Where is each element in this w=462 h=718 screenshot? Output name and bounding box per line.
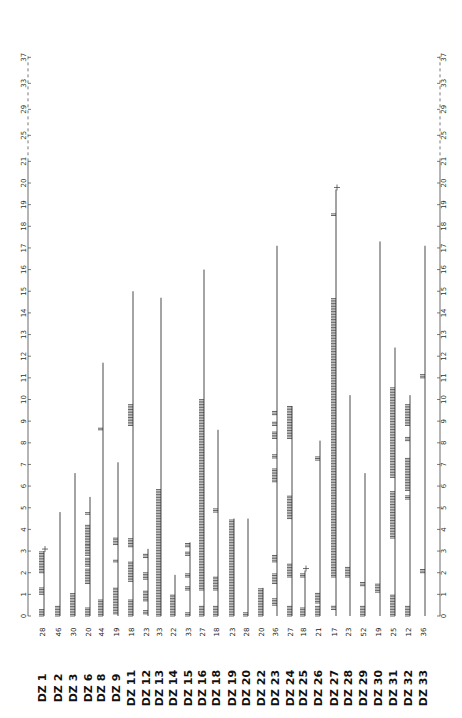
category-bars	[39, 184, 425, 616]
axis-tick-label: 37	[20, 53, 28, 62]
axis-tick-label: 6	[440, 483, 448, 488]
bar-dz-24	[287, 406, 292, 616]
category-label: DZ 8	[95, 674, 108, 703]
axis-tick-label: 2	[440, 570, 448, 574]
axis-tick-label: 20	[440, 179, 448, 188]
bar-dz-25	[300, 566, 309, 616]
bar-dz-3	[70, 473, 75, 616]
bar-dz-22	[258, 588, 263, 616]
range-chart: 0123456789101112131415161718192021252933…	[0, 0, 462, 718]
category-label: DZ 32	[402, 670, 415, 706]
axis-tick-label: 9	[20, 419, 28, 423]
bar-dz-16	[199, 270, 204, 616]
count-label: 44	[98, 627, 106, 636]
count-labels: 2846302044191823332233271823282036271821…	[39, 627, 428, 636]
count-label: 25	[390, 628, 398, 637]
left-value-axis: 0123456789101112131415161718192021252933…	[20, 53, 31, 618]
axis-tick-label: 8	[440, 441, 448, 445]
bar-dz-12	[143, 549, 148, 616]
bar-dz-20	[243, 519, 248, 616]
axis-tick-label: 15	[20, 287, 28, 296]
category-label: DZ 9	[110, 674, 123, 703]
axis-tick-label: 25	[20, 131, 28, 140]
category-label: DZ 22	[255, 670, 268, 706]
axis-tick-label: 33	[20, 79, 28, 88]
category-label: DZ 13	[153, 670, 166, 706]
count-label: 18	[128, 628, 136, 637]
category-label: DZ 18	[210, 670, 223, 706]
category-label: DZ 3	[67, 674, 80, 703]
bar-dz-32	[405, 395, 410, 616]
bar-dz-13	[156, 298, 161, 616]
count-label: 52	[360, 628, 368, 637]
axis-tick-label: 13	[20, 330, 28, 339]
bar-dz-30	[375, 241, 380, 616]
count-label: 27	[199, 628, 207, 637]
bar-dz-2	[55, 512, 60, 616]
right-value-axis: 0123456789101112131415161718192021252933…	[437, 53, 448, 618]
bar-dz-33	[420, 246, 425, 616]
category-label: DZ 27	[328, 670, 341, 706]
count-label: 17	[331, 628, 339, 637]
axis-tick-label: 7	[440, 462, 448, 466]
category-label: DZ 1	[36, 674, 49, 703]
axis-tick-label: 29	[440, 105, 448, 114]
category-label: DZ 28	[342, 670, 355, 706]
bar-dz-14	[170, 575, 175, 616]
count-label: 33	[185, 628, 193, 637]
axis-tick-label: 3	[440, 549, 448, 553]
bar-dz-23	[272, 246, 277, 616]
axis-tick-label: 18	[20, 222, 28, 231]
category-label: DZ 11	[125, 670, 138, 706]
axis-tick-label: 16	[440, 265, 448, 274]
count-label: 20	[85, 628, 93, 637]
axis-tick-label: 13	[440, 330, 448, 339]
axis-tick-label: 3	[20, 549, 28, 553]
bar-dz-15	[185, 542, 190, 616]
axis-tick-label: 11	[440, 373, 448, 382]
count-label: 21	[315, 628, 323, 637]
count-label: 18	[300, 628, 308, 637]
category-label: DZ 26	[312, 670, 325, 707]
bar-dz-26	[315, 441, 320, 616]
category-label: DZ 33	[417, 670, 430, 706]
count-label: 36	[272, 627, 280, 636]
axis-tick-label: 2	[20, 570, 28, 574]
count-label: 19	[375, 628, 383, 637]
category-label: DZ 6	[82, 673, 95, 702]
category-label: DZ 19	[226, 670, 239, 706]
axis-tick-label: 21	[440, 157, 448, 166]
axis-tick-label: 0	[20, 614, 28, 618]
axis-tick-label: 29	[20, 105, 28, 114]
category-label: DZ 24	[284, 670, 297, 707]
bar-dz-19	[229, 519, 234, 616]
axis-tick-label: 12	[20, 352, 28, 361]
category-label: DZ 31	[387, 670, 400, 706]
axis-tick-label: 37	[440, 53, 448, 62]
bar-dz-11	[128, 291, 133, 616]
bar-dz-9	[113, 462, 118, 616]
bar-dz-18	[213, 430, 218, 616]
axis-tick-label: 6	[20, 483, 28, 488]
count-label: 12	[405, 628, 413, 637]
axis-tick-label: 20	[20, 179, 28, 188]
category-label: DZ 25	[297, 670, 310, 706]
category-label: DZ 2	[52, 674, 65, 703]
category-label: DZ 29	[357, 670, 370, 706]
axis-tick-label: 14	[20, 308, 28, 317]
axis-tick-label: 1	[440, 592, 448, 596]
count-label: 23	[345, 628, 353, 637]
category-label: DZ 23	[269, 670, 282, 706]
axis-tick-label: 17	[20, 243, 28, 252]
axis-tick-label: 5	[20, 506, 28, 510]
axis-tick-label: 8	[20, 441, 28, 445]
axis-tick-label: 10	[440, 395, 448, 404]
axis-tick-label: 15	[440, 287, 448, 296]
count-label: 33	[156, 628, 164, 637]
axis-tick-label: 18	[440, 222, 448, 231]
count-label: 46	[55, 627, 63, 636]
count-label: 28	[243, 628, 251, 637]
axis-tick-label: 12	[440, 352, 448, 361]
count-label: 23	[143, 628, 151, 637]
count-label: 18	[213, 628, 221, 637]
